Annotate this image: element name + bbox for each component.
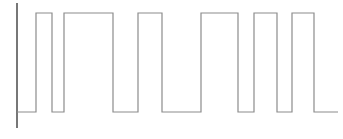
plot-canvas (0, 0, 343, 139)
square-wave-plot-figure (0, 0, 343, 139)
